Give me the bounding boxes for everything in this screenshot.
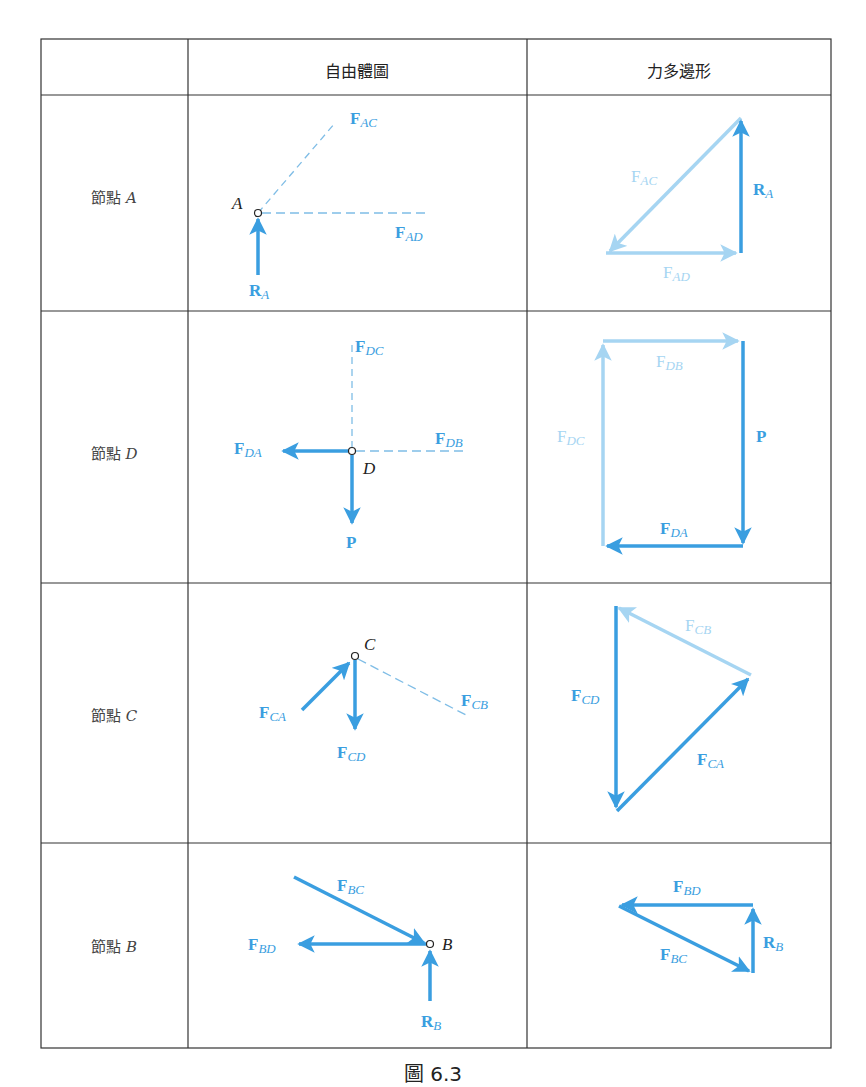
- fbd-joint-b: B FBC FBD RB: [248, 876, 453, 1033]
- polygon-joint-c: FCB FCD FCA: [571, 606, 751, 811]
- fbd-joint-d: D FDC FDB FDA P: [234, 337, 468, 552]
- label-f-dc: FDC: [355, 337, 384, 358]
- row-label-prefix: 節點: [91, 707, 121, 725]
- row-label-joint-c: 節點 C: [91, 704, 137, 725]
- row-label-node: B: [126, 938, 137, 956]
- label-poly-f-bd: FBD: [673, 877, 701, 898]
- label-f-bc: FBC: [337, 876, 364, 897]
- polygon-joint-b: FBD FBC RB: [619, 877, 783, 973]
- header-free-body-diagram: 自由體圖: [325, 58, 389, 82]
- node-label-b: B: [442, 935, 453, 954]
- label-poly-r-a: RA: [753, 180, 773, 201]
- row-label-joint-b: 節點 B: [91, 935, 137, 956]
- label-poly-r-b: RB: [763, 933, 783, 954]
- label-f-ac: FAC: [350, 109, 377, 130]
- figure-caption: 圖 6.3: [404, 1058, 462, 1087]
- row-label-prefix: 節點: [91, 445, 121, 463]
- polygon-joint-d: FDB FDC P FDA: [557, 341, 766, 546]
- table-grid: [41, 39, 831, 1048]
- row-label-joint-d: 節點 D: [91, 442, 138, 463]
- row-label-node: A: [126, 189, 137, 207]
- node-label-c: C: [364, 635, 376, 654]
- label-f-cd: FCD: [337, 743, 366, 764]
- label-p: P: [346, 533, 356, 552]
- label-poly-f-cb: FCB: [685, 616, 711, 637]
- label-poly-f-ad: FAD: [663, 263, 690, 284]
- label-poly-f-cd: FCD: [571, 686, 600, 707]
- label-poly-f-ac: FAC: [631, 167, 657, 188]
- label-f-da: FDA: [234, 439, 262, 460]
- label-poly-f-db: FDB: [656, 352, 683, 373]
- label-poly-f-ca: FCA: [697, 750, 724, 771]
- label-f-db: FDB: [435, 429, 463, 450]
- label-f-ca: FCA: [259, 703, 286, 724]
- node-label-d: D: [362, 459, 376, 478]
- label-poly-f-da: FDA: [660, 519, 688, 540]
- label-poly-f-dc: FDC: [557, 427, 585, 448]
- row-label-prefix: 節點: [91, 189, 121, 207]
- row-label-prefix: 節點: [91, 938, 121, 956]
- header-force-polygon: 力多邊形: [647, 58, 711, 82]
- row-label-joint-a: 節點 A: [91, 186, 137, 207]
- label-r-a: RA: [249, 281, 269, 302]
- label-f-ad: FAD: [395, 223, 423, 244]
- polygon-joint-a: FAC RA FAD: [606, 118, 773, 284]
- row-label-node: C: [126, 707, 137, 725]
- label-poly-p: P: [756, 427, 766, 446]
- label-f-bd: FBD: [248, 935, 276, 956]
- label-r-b: RB: [421, 1012, 441, 1033]
- label-f-cb: FCB: [461, 691, 488, 712]
- label-poly-f-bc: FBC: [660, 945, 687, 966]
- node-label-a: A: [231, 194, 243, 213]
- fbd-joint-c: C FCA FCD FCB: [259, 635, 488, 764]
- row-label-node: D: [125, 445, 137, 463]
- fbd-joint-a: A FAC FAD RA: [231, 109, 427, 302]
